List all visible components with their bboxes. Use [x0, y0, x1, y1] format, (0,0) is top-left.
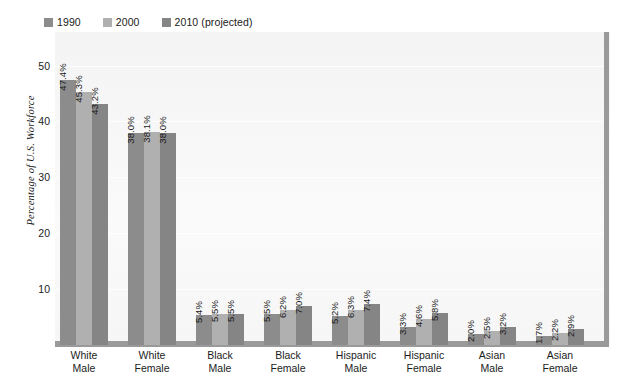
bar-value-label: 7.0% [293, 292, 304, 314]
bar: 3.2% [500, 327, 516, 345]
y-axis-label: Percentage of U.S. Workforce [25, 51, 36, 271]
legend-label: 2000 [116, 16, 140, 28]
x-axis-labels: WhiteMaleWhiteFemaleBlackMaleBlackFemale… [55, 349, 610, 376]
bar: 5.8% [432, 313, 448, 345]
bar: 3.3% [400, 327, 416, 345]
bar-group: 2.0%2.5%3.2% [468, 32, 516, 345]
bar-value-label: 6.2% [277, 296, 288, 318]
bar: 7.4% [364, 304, 380, 345]
bar-value-label: 47.4% [57, 63, 68, 90]
bar-value-label: 2.9% [565, 315, 576, 337]
bar-value-label: 38.1% [141, 115, 152, 142]
bar: 38.1% [144, 132, 160, 345]
bar-value-label: 6.3% [345, 296, 356, 318]
bar-value-label: 1.7% [533, 321, 544, 343]
bar: 2.9% [568, 329, 584, 345]
bar-group: 47.4%45.3%43.2% [60, 32, 108, 345]
bar: 6.2% [280, 310, 296, 345]
bar-value-label: 5.8% [429, 299, 440, 321]
y-axis-tick-label: 10 [4, 283, 50, 295]
bar: 5.2% [332, 316, 348, 345]
legend-item: 2010 (projected) [162, 16, 253, 28]
bar-value-label: 5.2% [329, 302, 340, 324]
legend-item: 2000 [103, 16, 140, 28]
bar-value-label: 7.4% [361, 290, 372, 312]
bar-group: 5.5%6.2%7.0% [264, 32, 312, 345]
legend-item: 1990 [44, 16, 81, 28]
bar-value-label: 45.3% [73, 75, 84, 102]
x-axis-category-label: AsianFemale [520, 349, 600, 374]
bar: 7.0% [296, 306, 312, 345]
legend-swatch-icon [103, 18, 112, 27]
bar-value-label: 5.5% [225, 300, 236, 322]
bars-layer: 47.4%45.3%43.2%38.0%38.1%38.0%5.4%5.5%5.… [55, 32, 610, 345]
bar: 38.0% [128, 133, 144, 345]
bar-value-label: 4.6% [413, 305, 424, 327]
legend-label: 1990 [57, 16, 81, 28]
x-axis-category-line: Asian [520, 349, 600, 362]
bar-group: 3.3%4.6%5.8% [400, 32, 448, 345]
bar: 43.2% [92, 104, 108, 345]
bar-value-label: 5.4% [193, 301, 204, 323]
bar: 5.5% [264, 314, 280, 345]
bar-value-label: 2.2% [549, 319, 560, 341]
bar-value-label: 2.5% [481, 317, 492, 339]
bar-group: 38.0%38.1%38.0% [128, 32, 176, 345]
bar-value-label: 38.0% [125, 116, 136, 143]
bar-value-label: 38.0% [157, 116, 168, 143]
bar: 47.4% [60, 80, 76, 345]
bar: 6.3% [348, 310, 364, 345]
bar-value-label: 3.3% [397, 313, 408, 335]
legend-label: 2010 (projected) [175, 16, 253, 28]
bar-value-label: 43.2% [89, 87, 100, 114]
bar: 4.6% [416, 319, 432, 345]
x-axis-category-line: Female [520, 362, 600, 375]
bar-value-label: 5.5% [209, 300, 220, 322]
bar-value-label: 2.0% [465, 320, 476, 342]
legend-swatch-icon [162, 18, 171, 27]
bar: 38.0% [160, 133, 176, 345]
bar: 45.3% [76, 92, 92, 345]
bar-value-label: 3.2% [497, 313, 508, 335]
bar-group: 1.7%2.2%2.9% [536, 32, 584, 345]
bar-value-label: 5.5% [261, 300, 272, 322]
chart-legend: 199020002010 (projected) [44, 14, 275, 30]
bar-group: 5.4%5.5%5.5% [196, 32, 244, 345]
bar: 5.5% [228, 314, 244, 345]
legend-swatch-icon [44, 18, 53, 27]
bar-group: 5.2%6.3%7.4% [332, 32, 380, 345]
